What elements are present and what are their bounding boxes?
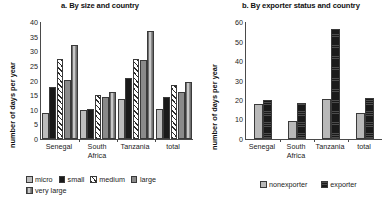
panel-b-xlabel-south-africa: South Africa: [279, 143, 313, 160]
bar-tanzania-nonexporter: [322, 99, 331, 139]
legend-item-very-large: very large: [26, 186, 67, 195]
panel-b-ytick-50: 50: [235, 37, 246, 46]
panel-a-title: a. By size and country: [0, 1, 200, 10]
bar-south-africa-nonexporter: [288, 121, 297, 139]
bar-total-medium: [171, 85, 178, 139]
panel-a-plot-area: 40 35 30 25 20 15 10 5 0: [40, 22, 193, 140]
bar-tanzania-medium: [133, 59, 140, 139]
panel-a-ytick-10: 10: [30, 105, 41, 114]
panel-b-ytick-30: 30: [235, 76, 246, 85]
panel-a-xlabel-total: total: [154, 143, 192, 160]
bar-senegal-nonexporter: [254, 104, 263, 139]
panel-b-group-tanzania: [314, 22, 348, 139]
legend-item-exporter: exporter: [321, 180, 356, 189]
panel-a-xlabel-tanzania: Tanzania: [116, 143, 154, 160]
panel-a-group-total: [155, 22, 193, 139]
bar-tanzania-micro: [118, 99, 125, 139]
panel-b-group-senegal: [246, 22, 280, 139]
panel-a-xlabel-south-africa: South Africa: [78, 143, 116, 160]
legend-item-medium: medium: [90, 175, 125, 184]
bar-south-africa-micro: [80, 110, 87, 139]
chart-panel-b: b. By exporter status and country number…: [200, 0, 388, 211]
panel-a-y-axis-label: number of days per year: [8, 62, 17, 148]
bar-south-africa-medium: [95, 95, 102, 139]
panel-b-xlabel-tanzania: Tanzania: [313, 143, 347, 160]
bar-tanzania-very-large: [147, 31, 154, 139]
bar-south-africa-small: [87, 109, 94, 139]
bar-total-micro: [156, 109, 163, 139]
panel-b-group-total: [348, 22, 382, 139]
bar-south-africa-large: [102, 97, 109, 139]
legend-item-large: large: [131, 175, 156, 184]
panel-a-ytick-5: 5: [34, 120, 41, 129]
panel-b-group-south-africa: [280, 22, 314, 139]
bar-senegal-small: [49, 87, 56, 139]
chart-panel-a: a. By size and country number of days pe…: [0, 0, 200, 211]
panel-a-group-south-africa: [79, 22, 117, 139]
bar-tanzania-small: [125, 78, 132, 139]
panel-b-ytick-10: 10: [235, 115, 246, 124]
bar-senegal-exporter: [263, 100, 272, 139]
panel-b-xlabel-senegal: Senegal: [245, 143, 279, 160]
figure-two-panel-bar-charts: a. By size and country number of days pe…: [0, 0, 388, 211]
panel-a-ytick-15: 15: [30, 91, 41, 100]
panel-b-ytick-20: 20: [235, 96, 246, 105]
legend-swatch-micro-icon: [26, 176, 33, 183]
legend-label-medium: medium: [99, 175, 125, 184]
panel-a-ytick-40: 40: [30, 18, 41, 27]
legend-swatch-very-large-icon: [26, 187, 33, 194]
bar-senegal-micro: [42, 113, 49, 139]
panel-b-ytick-40: 40: [235, 56, 246, 65]
panel-b-ytick-60: 60: [235, 18, 246, 27]
panel-a-ytick-30: 30: [30, 47, 41, 56]
legend-label-exporter: exporter: [330, 180, 356, 189]
bar-total-nonexporter: [356, 113, 365, 139]
bar-total-small: [163, 97, 170, 139]
panel-a-group-senegal: [41, 22, 79, 139]
legend-label-micro: micro: [35, 175, 53, 184]
panel-a-xlabel-senegal: Senegal: [40, 143, 78, 160]
bar-south-africa-very-large: [109, 92, 116, 139]
legend-swatch-nonexporter-icon: [260, 181, 267, 188]
legend-item-small: small: [59, 175, 85, 184]
panel-b-title: b. By exporter status and country: [200, 1, 388, 10]
panel-b-plot-area: 60 50 40 30 20 10 0: [245, 22, 382, 140]
bar-senegal-very-large: [71, 45, 78, 139]
panel-b-bar-groups: [246, 22, 382, 139]
legend-label-very-large: very large: [35, 186, 67, 195]
panel-a-x-axis-labels: Senegal South Africa Tanzania total: [40, 143, 192, 160]
legend-item-micro: micro: [26, 175, 53, 184]
legend-label-small: small: [68, 175, 85, 184]
panel-b-xlabel-total: total: [347, 143, 381, 160]
bar-total-large: [178, 92, 185, 139]
legend-swatch-exporter-icon: [321, 181, 328, 188]
legend-swatch-small-icon: [59, 176, 66, 183]
panel-a-ytick-20: 20: [30, 76, 41, 85]
legend-item-nonexporter: nonexporter: [260, 180, 307, 189]
legend-swatch-large-icon: [131, 176, 138, 183]
panel-a-ytick-35: 35: [30, 32, 41, 41]
panel-a-group-tanzania: [117, 22, 155, 139]
bar-south-africa-exporter: [297, 103, 306, 139]
bar-senegal-medium: [57, 59, 64, 139]
panel-a-legend: micro small medium large very large: [26, 175, 198, 195]
legend-label-large: large: [140, 175, 156, 184]
bar-total-very-large: [185, 82, 192, 139]
panel-b-x-axis-labels: Senegal South Africa Tanzania total: [245, 143, 381, 160]
bar-senegal-large: [64, 80, 71, 139]
panel-b-legend: nonexporter exporter: [260, 180, 388, 189]
legend-swatch-medium-icon: [90, 176, 97, 183]
panel-a-ytick-25: 25: [30, 61, 41, 70]
panel-b-y-axis-label: number of days per year: [210, 64, 219, 150]
bar-total-exporter: [365, 98, 374, 139]
legend-label-nonexporter: nonexporter: [269, 180, 307, 189]
bar-tanzania-exporter: [331, 29, 340, 139]
bar-tanzania-large: [140, 60, 147, 139]
panel-a-bar-groups: [41, 22, 193, 139]
